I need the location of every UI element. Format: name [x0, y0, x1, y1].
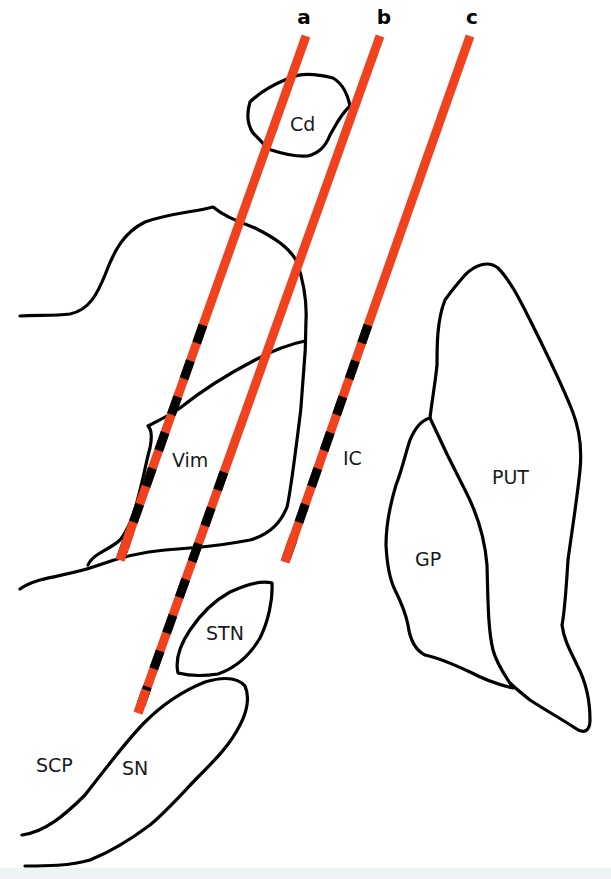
globus-pallidus-outline — [386, 418, 513, 688]
trajectory-a — [120, 36, 306, 560]
region-label-cd: Cd — [290, 113, 315, 135]
trajectory-label-a: a — [297, 5, 311, 29]
region-label-stn: STN — [206, 622, 244, 644]
diagram-canvas: a b c Cd Vim IC PUT GP STN SCP SN — [0, 0, 611, 879]
putamen-outline — [430, 264, 590, 731]
region-label-vim: Vim — [172, 449, 208, 471]
region-label-scp: SCP — [36, 754, 73, 776]
bottom-strip — [0, 868, 611, 879]
region-label-gp: GP — [415, 548, 441, 570]
thalamus-outline — [20, 207, 306, 589]
trajectory-label-b: b — [377, 5, 391, 29]
region-label-ic: IC — [343, 447, 362, 469]
region-label-put: PUT — [492, 466, 529, 488]
trajectory-label-c: c — [466, 5, 478, 29]
region-label-sn: SN — [122, 757, 148, 779]
